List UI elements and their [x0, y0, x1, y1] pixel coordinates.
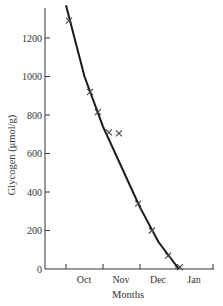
glycogen-chart: 020040060080010001200 OctNovDecJan Glyco…: [0, 0, 223, 306]
data-points: [66, 18, 183, 270]
x-axis-label: Months: [112, 289, 144, 300]
y-tick-label: 600: [27, 148, 42, 159]
x-tick-label: Nov: [112, 274, 129, 285]
y-tick-label: 400: [27, 187, 42, 198]
y-tick-label: 1200: [22, 33, 42, 44]
data-point-x-marker: [116, 130, 122, 136]
y-ticks: 020040060080010001200: [22, 33, 50, 275]
y-tick-label: 0: [37, 264, 42, 275]
y-tick-label: 1000: [22, 71, 42, 82]
y-tick-label: 800: [27, 110, 42, 121]
x-ticks: OctNovDecJan: [66, 264, 213, 285]
x-tick-label: Oct: [77, 274, 92, 285]
x-tick-label: Dec: [150, 274, 167, 285]
x-tick-label: Jan: [187, 274, 200, 285]
y-axis-label: Glycogen (μmol/g): [6, 114, 18, 195]
fitted-curve: [66, 5, 179, 269]
data-point-x-marker: [106, 129, 112, 135]
y-tick-label: 200: [27, 225, 42, 236]
